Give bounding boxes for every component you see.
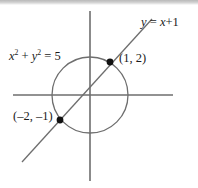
line-eq-tail: +1 — [165, 15, 178, 29]
intersection-point-b-marker — [57, 117, 64, 124]
math-figure: y = x+1 x2 + y2 = 5 (1, 2) (–2, –1) — [0, 0, 198, 188]
circle-eq-plus: + — [18, 49, 31, 63]
intersection-point-a-marker — [107, 59, 114, 66]
line-equation-label: y = x+1 — [141, 16, 179, 29]
circle-eq-value: 5 — [55, 49, 61, 63]
point-a-label: (1, 2) — [119, 52, 146, 65]
line-curve — [22, 19, 152, 162]
point-b-label: (–2, –1) — [13, 110, 53, 123]
line-eq-equals: = — [147, 15, 160, 29]
circle-eq-equals: = — [41, 49, 54, 63]
circle-equation-label: x2 + y2 = 5 — [9, 50, 61, 63]
